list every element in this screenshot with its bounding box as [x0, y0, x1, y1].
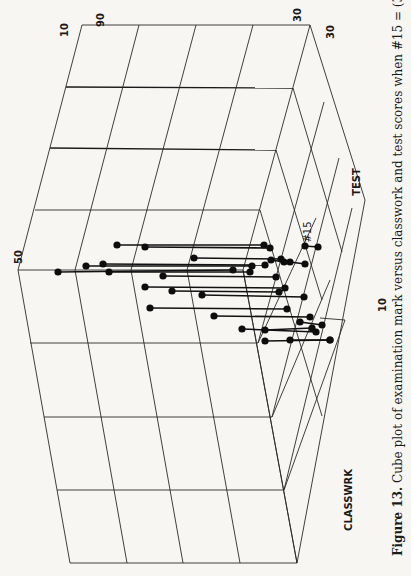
point-marker: [168, 287, 175, 294]
drop-line: [163, 276, 276, 277]
grid-line: [187, 25, 253, 270]
data-points: [54, 241, 333, 344]
grid-line: [18, 270, 70, 563]
highlight-point-label: #15: [302, 221, 313, 242]
grid-line: [243, 270, 297, 563]
point-marker: [113, 241, 120, 248]
point-marker: [267, 256, 274, 263]
point-marker: [238, 325, 245, 332]
point-marker: [146, 304, 153, 311]
point-marker: [141, 243, 148, 250]
grid-line: [18, 25, 82, 270]
tick-exam-50: 50: [13, 250, 24, 264]
drop-line: [150, 308, 287, 309]
drop-line: [214, 316, 310, 317]
figure-number: Figure 13.: [391, 487, 405, 556]
base-marker: [318, 321, 325, 328]
data-point: [286, 336, 333, 343]
data-point: [198, 291, 307, 300]
point-marker: [198, 291, 205, 298]
grid-line: [320, 318, 345, 320]
grid-line: [75, 25, 139, 270]
base-marker: [272, 273, 279, 280]
figure-caption: Figure 13. Cube plot of examination mark…: [391, 0, 405, 556]
data-point: [99, 260, 268, 268]
base-marker: [261, 261, 268, 268]
data-point: [54, 266, 236, 275]
drop-line: [103, 264, 265, 265]
tick-test-30: 30: [325, 25, 336, 39]
data-point: [267, 256, 287, 265]
base-marker: [280, 258, 287, 265]
axis-label-test: TEST: [351, 168, 362, 196]
point-marker: [190, 254, 197, 261]
point-marker: [261, 326, 268, 333]
grid-line: [276, 150, 322, 300]
drop-line: [145, 287, 285, 288]
point-marker: [261, 337, 268, 344]
base-marker: [275, 288, 282, 295]
figure-caption-text: Cube plot of examination mark versus cla…: [391, 0, 405, 487]
tick-test-10: 10: [377, 298, 388, 312]
grid-line: [293, 88, 342, 252]
grid-line: [243, 25, 310, 270]
tick-exam-90: 90: [95, 13, 106, 27]
base-marker: [266, 244, 273, 251]
base-marker: [308, 324, 315, 331]
grid-line: [297, 200, 365, 563]
drop-line: [265, 328, 312, 330]
tick-classwrk-30: 30: [292, 8, 303, 22]
point-marker: [82, 262, 89, 269]
base-marker: [326, 336, 333, 343]
grid-line: [272, 280, 330, 417]
drop-line: [172, 291, 279, 292]
point-marker: [296, 318, 303, 325]
point-marker: [286, 336, 293, 343]
point-marker: [54, 268, 61, 275]
base-marker: [301, 260, 308, 267]
paper-page: 90 10 30 30 50 10 TEST CLASSWRK #15 Figu…: [0, 0, 411, 576]
point-marker: [141, 283, 148, 290]
drop-line: [202, 295, 304, 297]
base-marker: [281, 284, 288, 291]
data-point: [159, 272, 279, 280]
cube-plot: 90 10 30 30 50 10 TEST CLASSWRK #15 Figu…: [0, 0, 411, 576]
base-marker: [246, 268, 253, 275]
data-point: [301, 242, 321, 250]
drop-line: [145, 247, 270, 248]
cube-grid: [18, 25, 365, 563]
grid-line: [131, 25, 196, 270]
data-point: [146, 304, 290, 312]
grid-line: [284, 320, 345, 490]
point-marker: [99, 260, 106, 267]
point-marker: [159, 272, 166, 279]
grid-line: [260, 210, 305, 360]
base-marker: [314, 243, 321, 250]
point-marker: [105, 268, 112, 275]
base-marker: [283, 305, 290, 312]
grid-line: [75, 270, 127, 563]
base-marker: [306, 313, 313, 320]
data-point: [286, 258, 308, 267]
axis-label-classwrk: CLASSWRK: [343, 468, 354, 531]
grid-line: [131, 270, 183, 563]
point-marker: [210, 312, 217, 319]
base-marker: [300, 293, 307, 300]
data-point: [141, 283, 288, 291]
tick-classwrk-10: 10: [59, 23, 70, 37]
